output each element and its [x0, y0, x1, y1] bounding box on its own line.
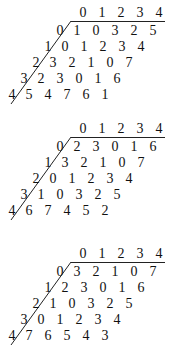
row-label: 4	[7, 204, 17, 218]
table-cell: 2	[100, 204, 110, 218]
table-cell: 2	[74, 313, 84, 327]
table-cell: 2	[91, 265, 101, 279]
table-cell: 5	[112, 188, 122, 202]
table-cell: 3	[117, 40, 127, 54]
table-cell: 1	[93, 72, 103, 86]
table-cell: 6	[43, 329, 53, 343]
table-cell: 4	[112, 313, 122, 327]
table-cell: 3	[74, 188, 84, 202]
row-label: 3	[19, 72, 29, 86]
table-cell: 6	[136, 281, 146, 295]
table-cell: 4	[124, 172, 134, 186]
table-cell: 0	[110, 140, 120, 154]
table-cell: 7	[24, 329, 34, 343]
table-cell: 7	[124, 56, 134, 70]
table-cell: 0	[117, 156, 127, 170]
table-cell: 1	[86, 56, 96, 70]
table-cell: 4	[136, 40, 146, 54]
table-cell: 7	[136, 156, 146, 170]
table-cell: 2	[60, 281, 70, 295]
table-cell: 2	[98, 40, 108, 54]
row-label: 0	[55, 265, 65, 279]
table-cell: 1	[100, 88, 110, 102]
table-cell: 1	[117, 281, 127, 295]
table-cell: 1	[98, 156, 108, 170]
table-cell: 0	[55, 188, 65, 202]
table-cell: 0	[129, 265, 139, 279]
table-cell: 1	[67, 172, 77, 186]
row-label: 2	[31, 297, 41, 311]
table-cell: 0	[74, 72, 84, 86]
table-cell: 1	[55, 313, 65, 327]
table-cell: 5	[124, 297, 134, 311]
row-label: 2	[31, 172, 41, 186]
table-cell: 5	[24, 88, 34, 102]
table-cell: 1	[72, 24, 82, 38]
table-cell: 7	[62, 88, 72, 102]
table-cell: 4	[43, 88, 53, 102]
table-cell: 2	[79, 156, 89, 170]
row-label: 3	[19, 313, 29, 327]
operation-table-1: 01234010325101234232107323016454761	[0, 2, 183, 112]
row-label: 0	[55, 24, 65, 38]
row-label: 1	[43, 40, 53, 54]
table-cell: 3	[105, 172, 115, 186]
row-label: 0	[55, 140, 65, 154]
table-cell: 4	[62, 204, 72, 218]
table-cell: 6	[24, 204, 34, 218]
table-cell: 3	[72, 265, 82, 279]
table-cell: 2	[36, 72, 46, 86]
table-cell: 3	[86, 297, 96, 311]
table-cell: 0	[48, 172, 58, 186]
table-cell: 2	[105, 297, 115, 311]
table-cell: 7	[148, 265, 158, 279]
table-cell: 3	[100, 329, 110, 343]
table-cell: 6	[81, 88, 91, 102]
table-cell: 5	[81, 204, 91, 218]
table-cell: 6	[112, 72, 122, 86]
table-cell: 2	[129, 24, 139, 38]
table-cell: 2	[67, 56, 77, 70]
table-cell: 6	[148, 140, 158, 154]
table-cell: 2	[86, 172, 96, 186]
table-cell: 5	[62, 329, 72, 343]
table-cell: 7	[43, 204, 53, 218]
table-cell: 1	[110, 265, 120, 279]
table-cell: 1	[36, 188, 46, 202]
table-cell: 3	[91, 140, 101, 154]
table-cell: 3	[79, 281, 89, 295]
table-cell: 3	[60, 156, 70, 170]
operation-table-3: 01234032107123016210325301234476543	[0, 243, 183, 352]
table-cell: 5	[148, 24, 158, 38]
table-cell: 1	[79, 40, 89, 54]
row-label: 2	[31, 56, 41, 70]
table-cell: 3	[48, 56, 58, 70]
table-cell: 4	[81, 329, 91, 343]
table-cell: 0	[98, 281, 108, 295]
table-cell: 1	[48, 297, 58, 311]
table-cell: 2	[72, 140, 82, 154]
table-cell: 0	[105, 56, 115, 70]
table-cell: 0	[60, 40, 70, 54]
table-cell: 1	[129, 140, 139, 154]
table-cell: 3	[93, 313, 103, 327]
row-label: 3	[19, 188, 29, 202]
operation-table-2: 01234023016132107201234310325467452	[0, 118, 183, 228]
table-cell: 2	[93, 188, 103, 202]
row-label: 4	[7, 329, 17, 343]
row-label: 4	[7, 88, 17, 102]
table-cell: 0	[67, 297, 77, 311]
table-cell: 3	[110, 24, 120, 38]
table-cell: 0	[91, 24, 101, 38]
table-cell: 0	[36, 313, 46, 327]
row-label: 1	[43, 156, 53, 170]
row-label: 1	[43, 281, 53, 295]
table-cell: 3	[55, 72, 65, 86]
